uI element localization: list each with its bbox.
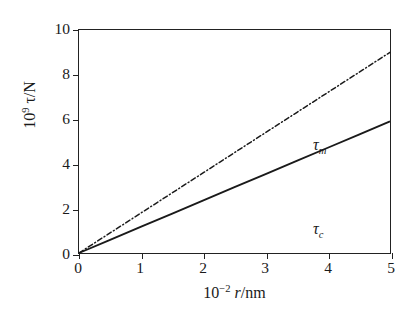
series-annotation-tau-c: τc — [313, 220, 323, 238]
x-axis-tick — [204, 253, 205, 259]
x-axis-tick — [79, 253, 80, 259]
x-axis-tick — [267, 253, 268, 259]
y-axis-title: 109 τ/N — [21, 47, 39, 163]
chart-figure: 10 8 6 4 2 0 0 1 2 3 4 5 109 τ/N 10−2 r/… — [0, 0, 414, 315]
y-axis-title-exponent: 9 — [20, 108, 31, 113]
series-annotation-tau-m: τm — [313, 136, 326, 154]
x-axis-title-unit: /nm — [241, 284, 266, 301]
series-line-tau-c — [79, 121, 390, 253]
series-annotation-tau-c-subscript: c — [319, 229, 324, 240]
x-axis-title-mantissa: 10 — [203, 284, 219, 301]
y-axis-title-unit: /N — [21, 81, 38, 97]
x-axis-tick — [329, 253, 330, 259]
x-tick-label: 2 — [183, 260, 223, 276]
y-axis-title-mantissa: 10 — [21, 113, 38, 129]
y-tick-label: 10 — [2, 21, 70, 37]
x-axis-tick — [142, 253, 143, 259]
x-tick-label: 3 — [245, 260, 285, 276]
x-axis-tick — [392, 253, 393, 259]
data-series-svg — [79, 30, 390, 253]
plot-area: τm τc — [78, 29, 391, 254]
x-axis-title-exponent: −2 — [219, 283, 230, 294]
y-axis-title-variable: τ — [21, 97, 38, 103]
x-tick-label: 5 — [371, 260, 411, 276]
series-annotation-tau-m-subscript: m — [319, 145, 327, 156]
series-line-tau-m — [79, 52, 390, 253]
x-tick-label: 4 — [308, 260, 348, 276]
x-axis-tick-label-group: 0 1 2 3 4 5 — [0, 260, 414, 284]
x-tick-label: 1 — [120, 260, 160, 276]
x-tick-label: 0 — [58, 260, 98, 276]
x-axis-title: 10−2 r/nm — [78, 284, 391, 302]
y-tick-label: 2 — [2, 201, 70, 217]
